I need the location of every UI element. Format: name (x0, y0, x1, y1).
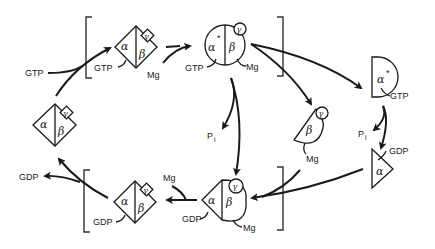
gamma-label: γ (63, 109, 68, 118)
bracket-top-left (86, 17, 92, 78)
mg-label: Mg (306, 154, 319, 164)
g-protein-cycle-diagram: γ α β GTP Mg GTP γ α * β GTP Mg P i α * … (0, 0, 435, 249)
alpha-star-label: α (377, 73, 385, 86)
beta-label: β (138, 48, 145, 61)
gamma-label: γ (237, 25, 242, 34)
mg-label: Mg (243, 223, 256, 233)
alpha-label: α (121, 195, 129, 208)
beta-label: β (137, 202, 144, 215)
beta-label: β (228, 41, 235, 54)
heterotrimer-gdp-node: γ α β GDP (93, 181, 156, 227)
pi-release-arrow (223, 78, 234, 128)
alpha-gtp-node: α * GTP (372, 57, 409, 101)
heterotrimer-gdp-free-node: γ α β (33, 104, 76, 146)
alpha-star-label: α (208, 41, 216, 54)
active-heterotrimer-node: γ α * β GTP Mg (185, 23, 259, 73)
mg-label: Mg (246, 62, 259, 72)
alpha-release-arrow (251, 44, 361, 88)
bracket-bottom-left (84, 170, 90, 232)
gtp-label: GTP (390, 91, 409, 101)
pi-subscript: i (365, 134, 367, 141)
gdp-label: GDP (182, 214, 202, 224)
beta-gamma-release-arrow (251, 44, 311, 104)
star-label: * (386, 68, 390, 78)
gdp-bound-label: GDP (93, 217, 113, 227)
gtp-input-label: GTP (25, 68, 44, 78)
pi-subscript: i (214, 136, 216, 143)
star-label: * (217, 33, 221, 43)
alpha-pi-release-arrow (374, 106, 384, 130)
pi-label: P (358, 129, 364, 139)
beta-gamma-mg-node: γ β Mg (294, 107, 328, 164)
gdp-out-arrow (45, 176, 80, 182)
alpha-gdp-node: α GDP (372, 146, 409, 188)
gamma-label: γ (319, 109, 324, 118)
heterotrimer-gtp-mg-node: γ α β GTP Mg (94, 26, 160, 80)
mg-release-label: Mg (163, 173, 176, 183)
gamma-label: γ (144, 32, 149, 41)
gamma-label: γ (143, 186, 148, 195)
gtp-bound-label: GTP (185, 63, 204, 73)
mg-label: Mg (147, 70, 160, 80)
activation-arrow (163, 46, 190, 63)
alpha-label: α (208, 194, 216, 207)
alpha-label: α (40, 118, 48, 131)
gtp-bound-label: GTP (94, 63, 113, 73)
gdp-label: GDP (389, 146, 409, 156)
alpha-label: α (376, 165, 384, 178)
beta-label: β (57, 125, 64, 138)
beta-label: β (305, 124, 312, 137)
beta-label: β (225, 196, 232, 209)
gamma-label: γ (233, 182, 238, 191)
heterotrimer-gdp-mg-node: γ α β GDP Mg (182, 179, 256, 233)
gdp-output-label: GDP (19, 172, 39, 182)
hydrolysis-arrow (231, 78, 240, 174)
pi-label: P (207, 131, 213, 141)
bracket-bottom-right (277, 167, 283, 230)
alpha-label: α (121, 40, 129, 53)
